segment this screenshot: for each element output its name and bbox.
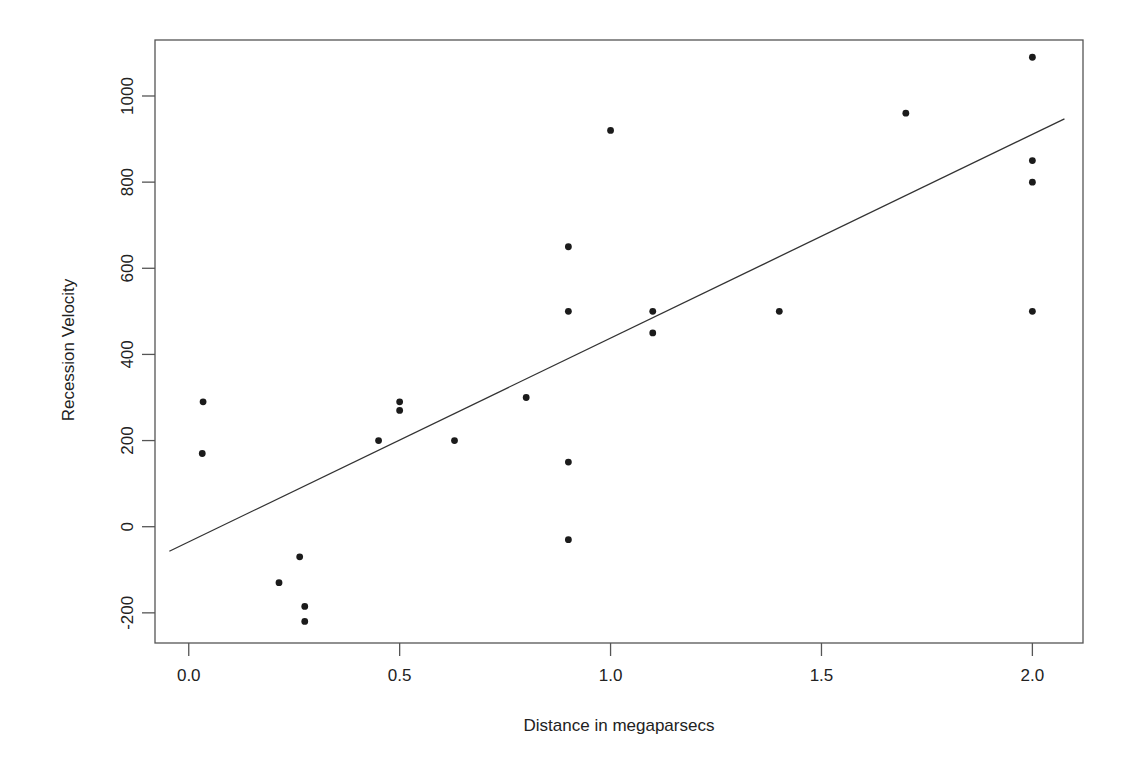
y-axis-ticks xyxy=(142,96,155,613)
data-point xyxy=(565,308,572,315)
x-tick-label: 0.5 xyxy=(388,666,412,685)
y-axis-tick-labels: -20002004006008001000 xyxy=(118,77,137,630)
data-point xyxy=(396,398,403,405)
y-axis-title: Recession Velocity xyxy=(59,278,78,421)
y-tick-label: 800 xyxy=(118,168,137,196)
data-point xyxy=(1029,54,1036,61)
data-point xyxy=(902,110,909,117)
data-point xyxy=(296,553,303,560)
data-point xyxy=(523,394,530,401)
data-point xyxy=(451,437,458,444)
plot-canvas: 0.00.51.01.52.0 -20002004006008001000 Di… xyxy=(0,0,1145,774)
data-point xyxy=(1029,308,1036,315)
data-point xyxy=(200,398,207,405)
hubble-scatter-figure: 0.00.51.01.52.0 -20002004006008001000 Di… xyxy=(0,0,1145,774)
x-axis-tick-labels: 0.00.51.01.52.0 xyxy=(177,666,1044,685)
data-point xyxy=(776,308,783,315)
x-axis-title: Distance in megaparsecs xyxy=(524,716,715,735)
y-tick-label: 600 xyxy=(118,254,137,282)
data-point xyxy=(301,603,308,610)
data-point xyxy=(607,127,614,134)
y-tick-label: 200 xyxy=(118,426,137,454)
data-point xyxy=(565,459,572,466)
y-tick-label: 400 xyxy=(118,340,137,368)
x-axis-ticks xyxy=(189,643,1033,656)
x-tick-label: 2.0 xyxy=(1021,666,1045,685)
y-tick-label: 0 xyxy=(118,522,137,531)
x-tick-label: 0.0 xyxy=(177,666,201,685)
regression-line xyxy=(169,119,1064,551)
data-point xyxy=(375,437,382,444)
data-point xyxy=(1029,157,1036,164)
x-tick-label: 1.5 xyxy=(810,666,834,685)
data-point-group xyxy=(199,54,1036,625)
data-point xyxy=(276,579,283,586)
y-tick-label: -200 xyxy=(118,596,137,630)
data-point xyxy=(199,450,206,457)
data-point xyxy=(565,536,572,543)
data-point xyxy=(649,308,656,315)
data-point xyxy=(301,618,308,625)
data-point xyxy=(396,407,403,414)
plot-frame xyxy=(155,40,1083,643)
data-point xyxy=(1029,179,1036,186)
x-tick-label: 1.0 xyxy=(599,666,623,685)
data-point xyxy=(649,329,656,336)
data-point xyxy=(565,243,572,250)
y-tick-label: 1000 xyxy=(118,77,137,115)
